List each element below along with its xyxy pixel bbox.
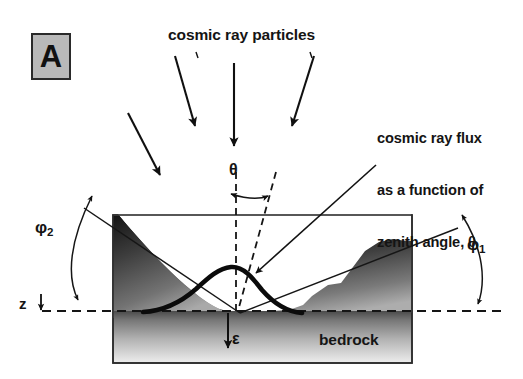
title-leader-right [310, 52, 312, 58]
datum-label: z [19, 295, 26, 313]
bedrock-label: bedrock [319, 331, 379, 349]
panel-label-box: A [31, 33, 71, 80]
cosmic-ray-arrow-4 [292, 56, 314, 126]
phi2-subscript: 2 [47, 226, 53, 238]
erosion-rate-label: ε [232, 330, 240, 349]
phi2-label: φ2 [35, 218, 53, 240]
cosmic-ray-arrow-2 [175, 56, 195, 126]
flux-annotation-line-2: as a function of [377, 182, 483, 199]
phi1-label: φ1 [467, 235, 485, 257]
flux-annotation-line-1: cosmic ray flux [377, 130, 483, 147]
panel-label-letter: A [33, 35, 69, 78]
phi2-symbol: φ [35, 218, 47, 237]
theta-label: θ [229, 161, 238, 180]
cosmic-ray-arrow-1 [128, 113, 160, 175]
phi1-subscript: 1 [479, 243, 485, 255]
figure-title: cosmic ray particles [168, 26, 315, 44]
title-leader-left [196, 52, 198, 58]
phi1-symbol: φ [467, 235, 479, 254]
